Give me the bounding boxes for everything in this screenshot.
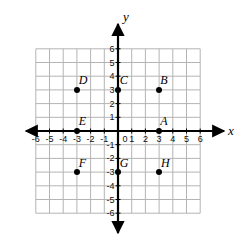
y-tick-label: -2 [106,154,114,163]
point-label-e: E [79,115,86,127]
x-tick-label: 2 [143,135,148,144]
point-label-c: C [120,74,128,86]
coordinate-plane: y x -6-5-4-3-2-10123456654321-1-2-3-4-5-… [0,0,245,243]
y-tick-label: 3 [109,85,114,94]
y-tick-label: -1 [106,140,114,149]
point-label-a: A [160,115,167,127]
y-tick-label: 5 [109,58,114,67]
coordinate-plane-canvas [0,0,245,243]
point-marker-h [156,169,162,175]
x-tick-label: 4 [170,135,175,144]
x-tick-label: 1 [129,135,134,144]
point-marker-f [74,169,80,175]
y-tick-label: 1 [109,113,114,122]
y-tick-label: 2 [109,99,114,108]
point-marker-b [156,87,162,93]
point-marker-e [74,128,80,134]
x-tick-label: 6 [198,135,203,144]
x-tick-label: -3 [73,135,81,144]
y-tick-label: -5 [106,195,114,204]
x-tick-label: -2 [87,135,95,144]
x-tick-label: 5 [184,135,189,144]
point-label-d: D [79,74,88,86]
y-tick-label: 6 [109,44,114,53]
y-tick-label: -4 [106,181,114,190]
point-marker-a [156,128,162,134]
point-marker-g [115,169,121,175]
point-label-h: H [161,157,170,169]
x-axis-label: x [228,124,234,137]
point-label-f: F [79,157,86,169]
point-marker-c [115,87,121,93]
y-axis-label: y [123,10,129,23]
x-tick-label: 3 [157,135,162,144]
x-tick-label: -4 [59,135,67,144]
y-tick-label: 4 [109,72,114,81]
point-label-b: B [160,74,167,86]
x-tick-label: 0 [123,135,128,144]
axis-lines [26,24,224,233]
point-marker-d [74,87,80,93]
x-tick-label: -5 [45,135,53,144]
y-tick-label: -3 [106,168,114,177]
y-tick-label: -6 [106,209,114,218]
x-tick-label: -6 [32,135,40,144]
point-label-g: G [120,157,129,169]
